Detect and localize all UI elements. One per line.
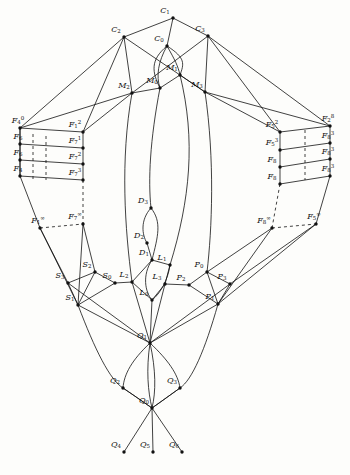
node-label-d3: D3 bbox=[138, 197, 148, 206]
node-label-f7_inf: F7∞ bbox=[68, 212, 82, 221]
node-label-f6_0b: F6 bbox=[13, 149, 22, 158]
node-label-s2: S2 bbox=[83, 261, 92, 270]
node-label-f8_c: F83 bbox=[322, 164, 335, 173]
node-group bbox=[18, 16, 331, 453]
node-label-s3: S3 bbox=[56, 272, 65, 281]
node-label-f8_b: F83 bbox=[322, 147, 335, 156]
node-label-f4_0: F40 bbox=[12, 116, 25, 125]
node-label-q2: Q2 bbox=[110, 377, 120, 386]
node-label-c3: C3 bbox=[195, 25, 205, 34]
node-label-p1: P1 bbox=[206, 293, 215, 302]
node-label-q5: Q5 bbox=[140, 441, 150, 450]
node-label-l2: L2 bbox=[120, 271, 129, 280]
edge-group bbox=[20, 18, 330, 452]
node-label-q6: Q6 bbox=[169, 441, 179, 450]
node-label-d2: D2 bbox=[134, 232, 144, 241]
node-label-q3: Q3 bbox=[167, 377, 177, 386]
node-label-s1: S1 bbox=[66, 294, 75, 303]
node-label-q4: Q4 bbox=[111, 441, 121, 450]
node-label-f8_a: F83 bbox=[322, 131, 335, 140]
node-label-d1: D1 bbox=[139, 249, 149, 258]
node-label-m0: M0 bbox=[146, 77, 158, 86]
node-label-f7_3: F73 bbox=[69, 168, 82, 177]
node-label-l3: L3 bbox=[153, 273, 162, 282]
node-label-s0: S0 bbox=[103, 272, 112, 281]
node-label-f5_inf: F5∞ bbox=[307, 212, 321, 221]
node-label-f7_2: F72 bbox=[69, 152, 82, 161]
node-label-q0: Q0 bbox=[139, 397, 149, 406]
node-label-l0: L0 bbox=[140, 289, 149, 298]
lattice-diagram: C1C2C3C0M1M2M3M0F40F6F6F4F1∞F12F71F72F73… bbox=[0, 0, 350, 475]
node-label-f1_2: F12 bbox=[69, 120, 82, 129]
node-label-f6_0: F6 bbox=[13, 133, 22, 142]
node-label-l1: L1 bbox=[158, 254, 167, 263]
node-label-m3: M3 bbox=[191, 81, 203, 90]
node-label-c0: C0 bbox=[154, 35, 164, 44]
node-label-f8_inf: F8∞ bbox=[257, 216, 271, 225]
node-label-c2: C2 bbox=[111, 26, 121, 35]
node-label-f8_d: F8 bbox=[267, 156, 276, 165]
node-label-f1_inf: F1∞ bbox=[31, 216, 45, 225]
node-label-f5_2: F52 bbox=[266, 120, 279, 129]
node-label-m2: M2 bbox=[118, 82, 130, 91]
node-label-p3: P3 bbox=[218, 273, 227, 282]
node-label-f8_e: F8 bbox=[267, 173, 276, 182]
node-label-p2: P2 bbox=[177, 274, 186, 283]
node-label-c1: C1 bbox=[160, 7, 170, 16]
node-label-q1: Q1 bbox=[137, 332, 147, 341]
node-label-f2_8: F28 bbox=[322, 114, 335, 123]
node-label-p0: P0 bbox=[195, 261, 204, 270]
node-label-f7_1: F71 bbox=[69, 136, 82, 145]
node-label-m1: M1 bbox=[166, 64, 178, 73]
node-label-f5_3: F53 bbox=[266, 138, 279, 147]
node-label-f4_b: F4 bbox=[13, 165, 22, 174]
